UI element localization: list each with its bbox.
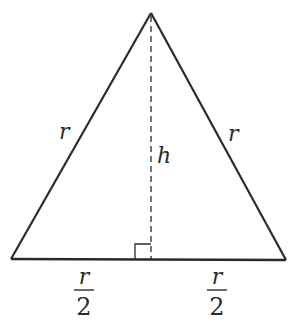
height-label: h: [157, 143, 171, 168]
left-base-fraction: r 2: [74, 264, 94, 321]
right-side-line: [151, 13, 286, 260]
base-line: [11, 259, 286, 260]
left-base-numerator: r: [79, 264, 91, 289]
right-base-fraction: r 2: [207, 264, 227, 321]
triangle: [11, 13, 286, 260]
left-base-denominator: 2: [76, 293, 91, 321]
right-angle-marker: [135, 244, 151, 259]
left-side-label: r: [59, 119, 71, 144]
left-side-line: [11, 13, 151, 259]
right-base-denominator: 2: [209, 293, 224, 321]
right-side-label: r: [228, 121, 240, 146]
right-base-numerator: r: [212, 264, 224, 289]
triangle-diagram: r h r r 2 r 2: [0, 0, 292, 333]
